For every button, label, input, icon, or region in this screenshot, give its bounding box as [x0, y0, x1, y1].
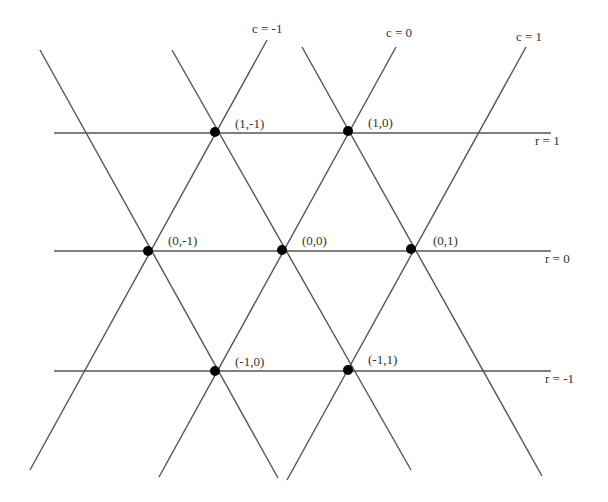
column-label: c = 1 — [516, 29, 542, 44]
labels: r = 1r = 0r = -1c = -1c = 0c = 1(1,-1)(1… — [168, 21, 574, 386]
point-label: (1,-1) — [235, 116, 264, 131]
column-label: c = -1 — [252, 21, 282, 36]
lattice-point — [143, 246, 153, 256]
lattice-point — [406, 244, 416, 254]
point-label: (0,0) — [302, 233, 327, 248]
lattice-point — [343, 365, 353, 375]
column-line — [287, 47, 526, 480]
lattice-point — [277, 245, 287, 255]
diagonal-lines — [40, 47, 542, 478]
row-label: r = 1 — [535, 133, 560, 148]
diagonal-line — [172, 50, 411, 470]
lattice-point — [343, 126, 353, 136]
point-label: (-1,1) — [368, 352, 397, 367]
triangular-lattice-diagram: r = 1r = 0r = -1c = -1c = 0c = 1(1,-1)(1… — [0, 0, 608, 502]
point-label: (0,-1) — [168, 233, 197, 248]
row-label: r = 0 — [545, 251, 570, 266]
diagonal-line — [40, 50, 278, 478]
diagonal-line — [302, 47, 542, 476]
point-label: (0,1) — [433, 233, 458, 248]
column-label: c = 0 — [386, 25, 412, 40]
row-label: r = -1 — [545, 371, 574, 386]
row-lines — [54, 133, 551, 371]
point-label: (1,0) — [368, 115, 393, 130]
lattice-point — [210, 127, 220, 137]
point-label: (-1,0) — [235, 354, 264, 369]
column-lines — [30, 40, 526, 480]
column-line — [159, 47, 396, 477]
lattice-point — [210, 366, 220, 376]
